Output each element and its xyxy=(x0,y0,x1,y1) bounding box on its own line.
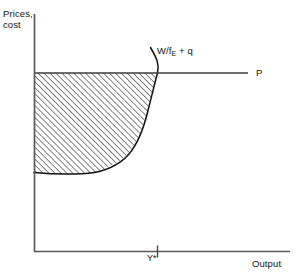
shaded-profit-region xyxy=(34,73,158,174)
figure-canvas xyxy=(0,0,296,276)
economics-figure: Prices, cost Output P Y* W/fE + q xyxy=(0,0,296,276)
cost-curve-label-tail: + q xyxy=(176,45,193,56)
price-line-label: P xyxy=(256,67,262,78)
x-tick-label-ystar: Y* xyxy=(147,253,157,264)
cost-curve-label: W/fE + q xyxy=(157,45,193,59)
y-axis-label-line2: cost xyxy=(3,19,33,30)
x-axis-label: Output xyxy=(252,258,281,269)
y-axis-label: Prices, cost xyxy=(3,8,33,30)
cost-curve-label-main: W/f xyxy=(157,45,172,56)
y-axis-label-line1: Prices, xyxy=(3,8,33,19)
